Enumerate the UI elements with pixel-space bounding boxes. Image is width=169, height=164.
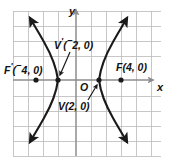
point-vertex-left [55,77,60,82]
label-focus-left: F'(⁻4, 0) [4,62,43,75]
point-focus-right [118,77,123,82]
label-vertex-left-name: V [54,39,61,51]
label-focus-left-x: 4 [22,64,28,76]
label-focus-left-y: 0 [33,64,39,76]
label-vertex-right-y: 0 [80,100,86,112]
origin-label: O [80,82,88,93]
x-axis-label: x [157,82,163,93]
label-vertex-right-x: 2 [69,100,75,112]
leader-vertex-right [88,85,97,100]
label-focus-left-prime: ' [10,61,12,71]
label-focus-right-name: F [116,61,122,73]
label-vertex-right: V(2, 0) [58,101,90,112]
leader-vertex-left [60,52,70,75]
label-vertex-left-x: 2 [72,39,78,51]
label-focus-right-x: 4 [126,61,132,73]
label-focus-right: F(4, 0) [116,62,147,73]
leader-lines [60,52,97,100]
label-focus-right-y: 0 [138,61,144,73]
point-vertex-right [96,77,101,82]
label-vertex-left-y: 0 [84,39,90,51]
point-focus-left [33,77,38,82]
label-vertex-right-name: V [58,100,65,112]
y-axis-label: y [69,6,75,17]
label-vertex-left: V'(⁻2, 0) [54,37,93,50]
label-vertex-left-prime: ' [61,36,63,46]
hyperbola-figure: F'(⁻4, 0) V'(⁻2, 0) F(4, 0) V(2, 0) x y … [0,0,169,164]
